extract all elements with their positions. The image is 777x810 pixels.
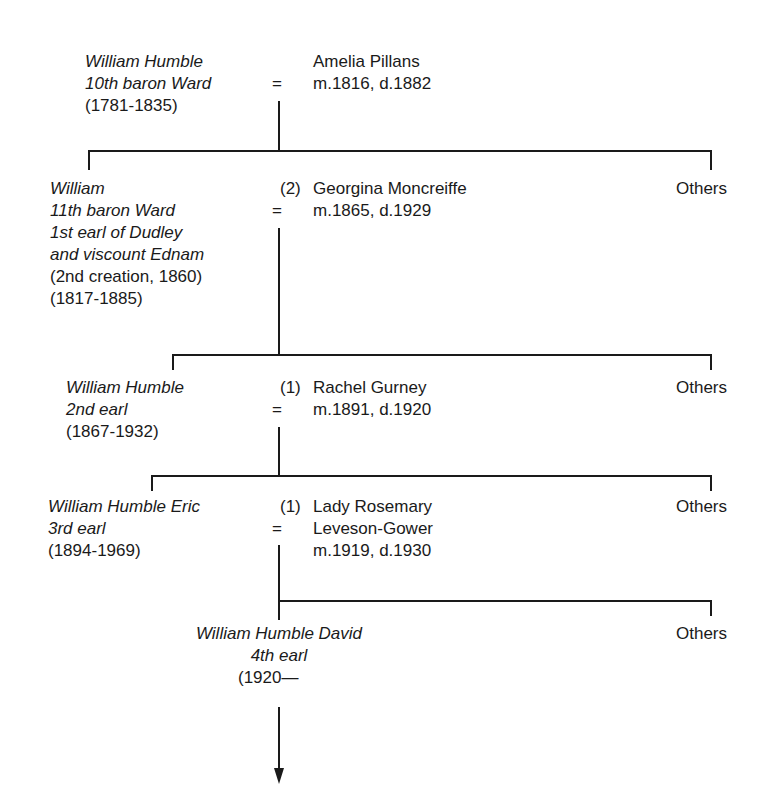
person-name-gen5: William Humble David — [158, 623, 400, 645]
others-drop-gen4 — [710, 475, 712, 491]
marriage-number-gen3: (1) — [280, 377, 301, 399]
spouse-detail-gen1: m.1816, d.1882 — [313, 73, 431, 95]
spouse-name-gen4-line1: Lady Rosemary — [313, 496, 432, 518]
spouse-detail-gen3: m.1891, d.1920 — [313, 399, 431, 421]
person-dates-gen5: (1920— — [238, 667, 298, 689]
marriage-number-gen4: (1) — [280, 496, 301, 518]
child-drop-gen4 — [151, 475, 153, 491]
marriage-symbol-gen3: = — [272, 399, 282, 421]
marriage-symbol-gen4: = — [272, 518, 282, 540]
person-title-gen3: 2nd earl — [66, 399, 127, 421]
others-label-gen2: Others — [676, 178, 727, 200]
child-drop-gen3 — [172, 354, 174, 370]
marriage-number-gen2: (2) — [280, 178, 301, 200]
spouse-name-gen4-line2: Leveson-Gower — [313, 518, 433, 540]
person-name-gen3: William Humble — [66, 377, 184, 399]
marriage-symbol-gen2: = — [272, 200, 282, 222]
others-drop-gen2 — [710, 150, 712, 170]
spouse-name-gen3: Rachel Gurney — [313, 377, 426, 399]
arrow-down-icon — [274, 768, 284, 784]
spouse-detail-gen2: m.1865, d.1929 — [313, 200, 431, 222]
person-title-gen2-line2: 1st earl of Dudley — [50, 222, 182, 244]
others-label-gen5: Others — [676, 623, 727, 645]
others-label-gen3: Others — [676, 377, 727, 399]
descent-line-gen2 — [278, 228, 280, 355]
spouse-name-gen2: Georgina Moncreiffe — [313, 178, 467, 200]
person-title-gen2-line1: 11th baron Ward — [50, 200, 175, 222]
sibling-bar-gen3 — [172, 354, 712, 356]
person-dates-gen1: (1781-1835) — [85, 95, 178, 117]
person-name-gen1: William Humble — [85, 51, 203, 73]
person-title-gen4: 3rd earl — [48, 518, 106, 540]
child-drop-gen2 — [88, 150, 90, 170]
person-dates-gen2: (1817-1885) — [50, 288, 143, 310]
spouse-detail-gen4: m.1919, d.1930 — [313, 540, 431, 562]
sibling-bar-gen2 — [88, 150, 712, 152]
person-dates-gen3: (1867-1932) — [66, 421, 159, 443]
spouse-name-gen1: Amelia Pillans — [313, 51, 420, 73]
person-name-gen4: William Humble Eric — [48, 496, 200, 518]
others-label-gen4: Others — [676, 496, 727, 518]
descent-line-gen1 — [278, 101, 280, 151]
marriage-symbol-gen1: = — [272, 73, 282, 95]
others-drop-gen5 — [710, 600, 712, 616]
continuation-line — [278, 707, 280, 769]
sibling-bar-gen5 — [278, 600, 712, 602]
person-dates-gen4: (1894-1969) — [48, 540, 141, 562]
person-note-gen2: (2nd creation, 1860) — [50, 266, 202, 288]
descent-line-gen4 — [278, 545, 280, 620]
sibling-bar-gen4 — [151, 475, 712, 477]
person-title-gen5: 4th earl — [158, 645, 400, 667]
person-name-gen2: William — [50, 178, 105, 200]
person-title-gen2-line3: and viscount Ednam — [50, 244, 204, 266]
others-drop-gen3 — [710, 354, 712, 370]
descent-line-gen3 — [278, 427, 280, 476]
person-title-gen1: 10th baron Ward — [85, 73, 211, 95]
